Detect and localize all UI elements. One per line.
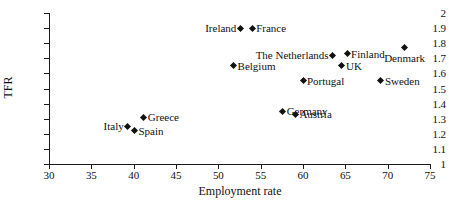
y-tick-mark (44, 119, 49, 120)
y-tick-mark (44, 58, 49, 59)
data-point-marker[interactable] (230, 62, 237, 69)
x-tick-label: 70 (373, 170, 403, 181)
data-point-label: Greece (148, 112, 179, 123)
x-tick-label: 55 (246, 170, 276, 181)
data-point-marker[interactable] (338, 62, 345, 69)
y-tick-label: 1.1 (405, 144, 449, 155)
data-point-marker[interactable] (299, 77, 306, 84)
data-point-marker[interactable] (377, 77, 384, 84)
y-tick-label: 1.2 (405, 129, 449, 140)
data-point-label: Sweden (385, 75, 420, 86)
x-tick-label: 50 (203, 170, 233, 181)
data-point-label: Belgium (238, 60, 276, 71)
y-tick-label: 1.3 (405, 114, 449, 125)
data-point-label: UK (346, 60, 362, 71)
data-point-marker[interactable] (140, 114, 147, 121)
data-point-label: Portugal (307, 75, 344, 86)
x-tick-label: 75 (415, 170, 445, 181)
x-tick-label: 35 (76, 170, 106, 181)
scatter-chart-figure: 21.91.81.71.61.51.41.31.21.11 3035404550… (0, 0, 449, 206)
data-point-label: Ireland (205, 23, 236, 34)
y-tick-mark (44, 43, 49, 44)
y-tick-label: 1.9 (405, 23, 449, 34)
data-point-marker[interactable] (124, 123, 131, 130)
y-tick-mark (44, 13, 49, 14)
data-point-marker[interactable] (279, 108, 286, 115)
data-point-label: Finland (351, 48, 385, 59)
x-tick-label: 30 (34, 170, 64, 181)
data-point-label: Spain (139, 125, 164, 136)
y-tick-mark (44, 73, 49, 74)
y-axis-line (49, 13, 50, 165)
data-point-label: Austria (299, 109, 331, 120)
x-tick-label: 40 (119, 170, 149, 181)
y-tick-label: 1.4 (405, 99, 449, 110)
x-axis-title: Employment rate (49, 185, 431, 198)
data-point-marker[interactable] (131, 127, 138, 134)
x-axis-line (49, 164, 431, 165)
x-tick-label: 65 (330, 170, 360, 181)
data-point-marker[interactable] (237, 25, 244, 32)
y-tick-mark (44, 149, 49, 150)
y-tick-mark (44, 104, 49, 105)
data-point-marker[interactable] (249, 25, 256, 32)
y-tick-mark (44, 89, 49, 90)
data-point-marker[interactable] (343, 50, 350, 57)
data-point-label: France (256, 23, 286, 34)
x-tick-label: 60 (288, 170, 318, 181)
x-tick-label: 45 (161, 170, 191, 181)
y-tick-mark (44, 28, 49, 29)
y-tick-label: 1.8 (405, 38, 449, 49)
y-tick-mark (44, 134, 49, 135)
y-tick-label: 2 (405, 8, 449, 19)
data-point-label: Denmark (384, 53, 425, 64)
y-axis-title: TFR (2, 64, 15, 112)
data-point-label: Italy (104, 121, 124, 132)
data-point-marker[interactable] (329, 52, 336, 59)
